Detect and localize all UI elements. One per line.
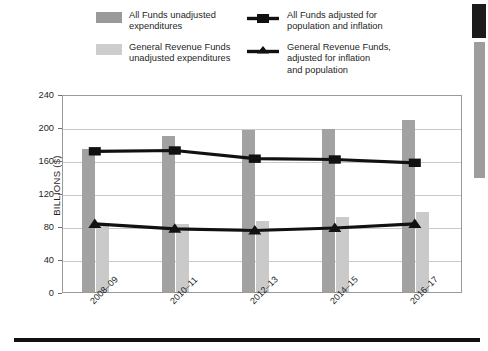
- bar: [162, 136, 176, 292]
- chart-legend: All Funds unadjusted expenditures Genera…: [96, 10, 466, 76]
- y-axis-tick-label: 240: [14, 90, 54, 100]
- y-axis-tick-label: 200: [14, 123, 54, 133]
- scan-edge-artifact-side: [474, 42, 485, 178]
- bar: [402, 120, 416, 292]
- bottom-divider-rule: [14, 338, 480, 342]
- legend-label: All Funds adjusted for population and in…: [287, 10, 383, 33]
- legend-swatch-dark-icon: [96, 12, 122, 23]
- plot-area: [62, 95, 462, 293]
- y-axis-tick-label: 40: [14, 255, 54, 265]
- chart-container: BILLIONS ($) 04080120160200240 2008–0920…: [14, 88, 466, 318]
- legend-item-grf-adjusted: General Revenue Funds, adjusted for infl…: [246, 42, 461, 76]
- bar: [322, 129, 336, 292]
- legend-swatch-light-icon: [96, 44, 122, 55]
- legend-line-square-icon: [246, 11, 280, 24]
- bar: [242, 130, 256, 292]
- legend-column-lines: All Funds adjusted for population and in…: [246, 10, 461, 76]
- legend-item-all-funds-unadjusted: All Funds unadjusted expenditures: [96, 10, 246, 33]
- legend-column-bars: All Funds unadjusted expenditures Genera…: [96, 10, 246, 76]
- legend-label: General Revenue Funds, adjusted for infl…: [287, 42, 391, 76]
- bar: [82, 149, 96, 292]
- y-axis-tick-mark: [58, 293, 62, 294]
- y-axis-tick-label: 120: [14, 189, 54, 199]
- y-axis-tick-label: 80: [14, 222, 54, 232]
- legend-label: All Funds unadjusted expenditures: [129, 10, 216, 33]
- legend-line-triangle-icon: [246, 43, 280, 56]
- y-axis-tick-label: 160: [14, 156, 54, 166]
- legend-item-all-funds-adjusted: All Funds adjusted for population and in…: [246, 10, 461, 33]
- y-axis-tick-label: 0: [14, 288, 54, 298]
- legend-item-grf-unadjusted: General Revenue Funds unadjusted expendi…: [96, 42, 246, 65]
- scan-edge-artifact-top: [472, 4, 486, 38]
- legend-label: General Revenue Funds unadjusted expendi…: [129, 42, 230, 65]
